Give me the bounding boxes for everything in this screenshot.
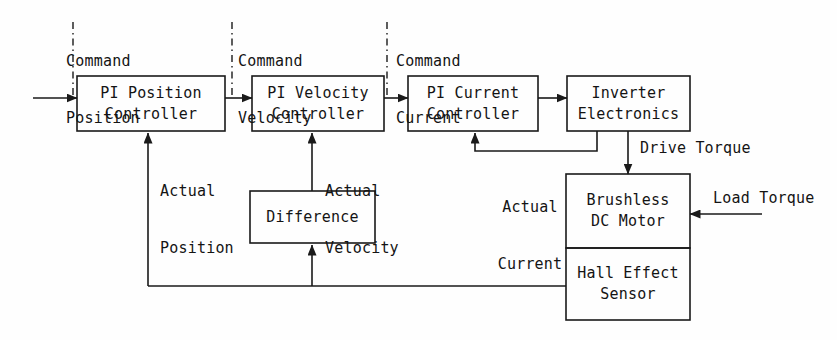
signal-label-actual-current: Actual Current	[495, 160, 565, 312]
signal-label-drive-torque: Drive Torque	[640, 139, 751, 158]
block-label-hall-sensor-line2: Sensor	[600, 284, 655, 305]
signal-label-command-position-line1: Command	[66, 52, 140, 71]
signal-label-command-position-line2: Position	[66, 109, 140, 128]
signal-label-load-torque: Load Torque	[713, 189, 815, 208]
block-label-motor-line1: Brushless	[586, 190, 669, 211]
signal-label-actual-velocity-line1: Actual	[325, 182, 399, 201]
block-label-inverter: Inverter Electronics	[567, 76, 690, 131]
block-label-inverter-line1: Inverter	[592, 83, 666, 104]
block-label-motor-line2: DC Motor	[591, 211, 665, 232]
block-diagram-canvas: PI Position Controller PI Velocity Contr…	[0, 0, 837, 340]
signal-label-command-current: Command Current	[396, 14, 461, 166]
signal-label-actual-velocity: Actual Velocity	[325, 144, 399, 296]
signal-label-actual-position-line2: Position	[160, 239, 234, 258]
signal-label-command-velocity-line1: Command	[238, 52, 312, 71]
signal-label-command-position: Command Position	[66, 14, 140, 166]
signal-label-command-current-line1: Command	[396, 52, 461, 71]
signal-label-actual-current-line1: Actual	[495, 198, 565, 217]
block-label-hall-sensor-line1: Hall Effect	[577, 263, 679, 284]
block-label-inverter-line2: Electronics	[578, 104, 680, 125]
signal-label-command-velocity-line2: Velocity	[238, 109, 312, 128]
block-label-hall-sensor: Hall Effect Sensor	[566, 248, 690, 320]
signal-label-command-current-line2: Current	[396, 109, 461, 128]
signal-label-actual-position-line1: Actual	[160, 182, 234, 201]
feedback-actual-current	[475, 131, 597, 151]
signal-label-actual-position: Actual Position	[160, 144, 234, 296]
signal-label-command-velocity: Command Velocity	[238, 14, 312, 166]
signal-label-actual-current-line2: Current	[495, 255, 565, 274]
block-label-motor: Brushless DC Motor	[566, 174, 690, 248]
signal-label-actual-velocity-line2: Velocity	[325, 239, 399, 258]
